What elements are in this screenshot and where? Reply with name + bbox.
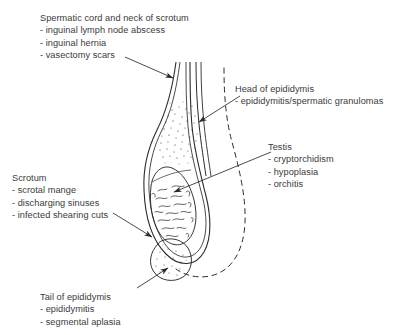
- annotation-testis: Testis - cryptorchidism - hypoplasia - o…: [268, 141, 334, 191]
- tail-stipple-texture: [156, 244, 187, 276]
- annotation-item: - epididymitis: [40, 303, 121, 315]
- leader-testis: [174, 152, 271, 192]
- annotation-item: - orchitis: [268, 178, 334, 190]
- annotation-tail-of-epididymis: Tail of epididymis - epididymitis - segm…: [40, 291, 121, 328]
- annotation-header: Testis: [268, 141, 334, 153]
- annotation-item: - cryptorchidism: [268, 153, 334, 165]
- annotation-spermatic-cord: Spermatic cord and neck of scrotum - ing…: [40, 12, 189, 62]
- annotation-item: - scrotal mange: [12, 184, 108, 196]
- leader-scrotum: [113, 213, 152, 237]
- annotation-scrotum: Scrotum - scrotal mange - discharging si…: [12, 172, 108, 222]
- annotation-item: - inguinal lymph node abscess: [40, 24, 189, 36]
- annotation-head-of-epididymis: Head of epididymis - epididymitis/sperma…: [235, 83, 383, 108]
- annotation-item: - epididymitis/spermatic granulomas: [235, 95, 383, 107]
- leader-head-epididymis: [199, 96, 240, 122]
- annotation-item: - discharging sinuses: [12, 197, 108, 209]
- annotation-item: - inguinal hernia: [40, 37, 189, 49]
- annotation-header: Scrotum: [12, 172, 108, 184]
- annotation-item: - segmental aplasia: [40, 316, 121, 328]
- annotation-item: - infected shearing cuts: [12, 209, 108, 221]
- annotation-item: - hypoplasia: [268, 166, 334, 178]
- annotation-item: - vasectomy scars: [40, 49, 189, 61]
- annotation-header: Tail of epididymis: [40, 291, 121, 303]
- figure-canvas: Spermatic cord and neck of scrotum - ing…: [0, 0, 414, 335]
- testis-parenchyma-texture: [152, 186, 193, 237]
- scrotal-wall: [144, 62, 210, 264]
- testis-body: [150, 167, 196, 245]
- annotation-header: Head of epididymis: [235, 83, 383, 95]
- annotation-header: Spermatic cord and neck of scrotum: [40, 12, 189, 24]
- leader-tail-epididymis: [137, 268, 168, 288]
